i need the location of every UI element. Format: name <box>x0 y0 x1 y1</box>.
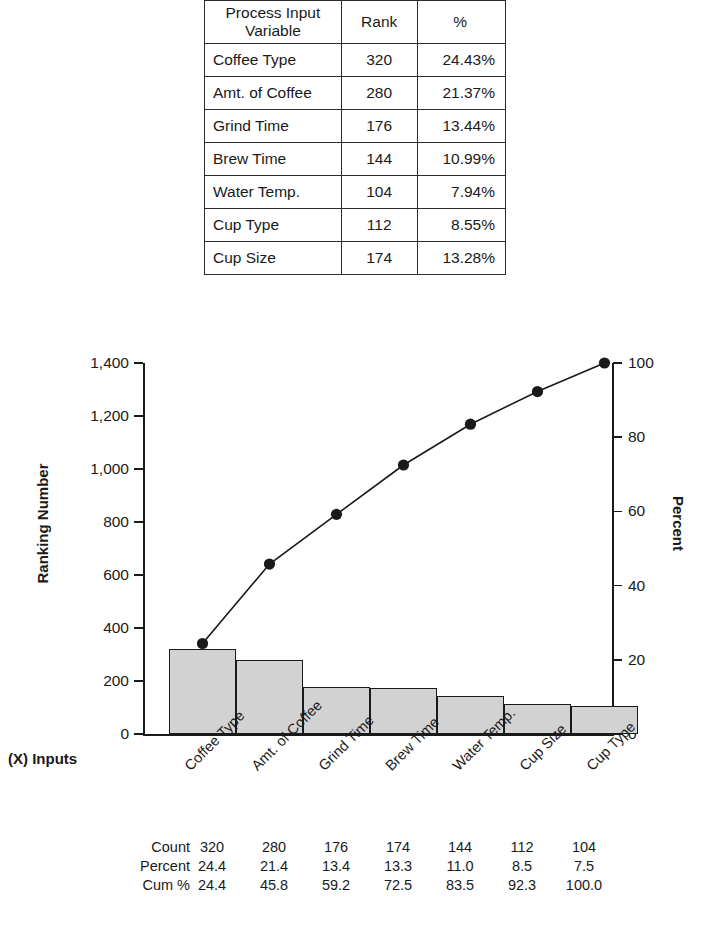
cell-percent: 7.94% <box>417 175 506 208</box>
x-axis-title: (X) Inputs <box>8 750 77 767</box>
cell-percent: 13.28% <box>417 241 506 274</box>
stats-value: 83.5 <box>433 876 487 895</box>
stats-value: 21.4 <box>247 857 301 876</box>
table-row: Amt. of Coffee28021.37% <box>205 76 506 109</box>
cell-rank: 320 <box>341 43 417 76</box>
table-row: Coffee Type32024.43% <box>205 43 506 76</box>
stats-value: 24.4 <box>185 857 239 876</box>
cumulative-point <box>264 558 275 569</box>
stats-label-percent: Percent <box>90 857 190 876</box>
cumulative-point <box>465 419 476 430</box>
stats-value: 320 <box>185 838 239 857</box>
table-row: Cup Type1128.55% <box>205 208 506 241</box>
cell-percent: 13.44% <box>417 109 506 142</box>
cell-percent: 21.37% <box>417 76 506 109</box>
stats-value: 92.3 <box>495 876 549 895</box>
stats-value: 112 <box>495 838 549 857</box>
cell-rank: 176 <box>341 109 417 142</box>
cumulative-point <box>197 638 208 649</box>
cell-variable: Grind Time <box>205 109 342 142</box>
chart-stats-table: Count 320280176174144112104 Percent 24.4… <box>0 838 712 895</box>
stats-value: 11.0 <box>433 857 487 876</box>
stats-row-cum: Cum % 24.445.859.272.583.592.3100.0 <box>0 876 712 895</box>
cumulative-point <box>331 509 342 520</box>
stats-value: 280 <box>247 838 301 857</box>
cell-variable: Coffee Type <box>205 43 342 76</box>
cumulative-point <box>599 357 610 368</box>
cell-rank: 280 <box>341 76 417 109</box>
cell-variable: Brew Time <box>205 142 342 175</box>
cell-rank: 104 <box>341 175 417 208</box>
table-row: Cup Size17413.28% <box>205 241 506 274</box>
stats-value: 13.3 <box>371 857 425 876</box>
cumulative-point <box>532 386 543 397</box>
stats-row-count: Count 320280176174144112104 <box>0 838 712 857</box>
header-rank: Rank <box>341 1 417 44</box>
table-header-row: Process Input Variable Rank % <box>205 1 506 44</box>
table-row: Grind Time17613.44% <box>205 109 506 142</box>
header-process-input-variable: Process Input Variable <box>205 1 342 44</box>
stats-value: 72.5 <box>371 876 425 895</box>
cell-rank: 112 <box>341 208 417 241</box>
process-input-summary-table: Process Input Variable Rank % Coffee Typ… <box>204 0 506 275</box>
stats-value: 100.0 <box>557 876 611 895</box>
stats-value: 45.8 <box>247 876 301 895</box>
stats-value: 144 <box>433 838 487 857</box>
stats-value: 13.4 <box>309 857 363 876</box>
cell-variable: Cup Size <box>205 241 342 274</box>
cell-variable: Cup Type <box>205 208 342 241</box>
cell-rank: 144 <box>341 142 417 175</box>
stats-row-percent: Percent 24.421.413.413.311.08.57.5 <box>0 857 712 876</box>
stats-value: 59.2 <box>309 876 363 895</box>
stats-value: 174 <box>371 838 425 857</box>
cumulative-point <box>398 459 409 470</box>
table-row: Water Temp.1047.94% <box>205 175 506 208</box>
table-row: Brew Time14410.99% <box>205 142 506 175</box>
stats-value: 24.4 <box>185 876 239 895</box>
y-axis-title-right: Percent <box>670 464 687 584</box>
header-percent: % <box>417 1 506 44</box>
stats-value: 104 <box>557 838 611 857</box>
y-axis-title-left: Ranking Number <box>34 444 51 604</box>
stats-label-cum: Cum % <box>90 876 190 895</box>
stats-value: 7.5 <box>557 857 611 876</box>
cell-variable: Water Temp. <box>205 175 342 208</box>
cell-variable: Amt. of Coffee <box>205 76 342 109</box>
cell-rank: 174 <box>341 241 417 274</box>
cell-percent: 24.43% <box>417 43 506 76</box>
stats-label-count: Count <box>90 838 190 857</box>
cell-percent: 10.99% <box>417 142 506 175</box>
stats-value: 176 <box>309 838 363 857</box>
cell-percent: 8.55% <box>417 208 506 241</box>
stats-value: 8.5 <box>495 857 549 876</box>
